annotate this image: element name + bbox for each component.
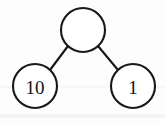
bond-edge-whole-to-left-part bbox=[50, 46, 68, 70]
node-circle-whole[interactable] bbox=[61, 8, 105, 52]
node-label-part-left: 10 bbox=[26, 77, 45, 98]
bond-edge-whole-to-right-part bbox=[98, 46, 118, 70]
number-bond-diagram: 10 1 bbox=[0, 0, 165, 125]
node-label-part-right: 1 bbox=[128, 77, 138, 98]
number-bond-canvas: 10 1 bbox=[0, 0, 165, 125]
